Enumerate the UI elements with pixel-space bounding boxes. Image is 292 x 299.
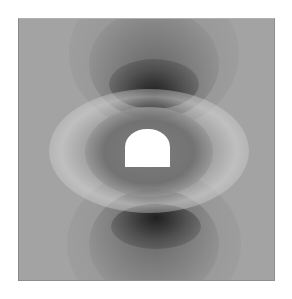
tunnel-opening [125, 129, 170, 167]
contour-plot [18, 18, 275, 281]
